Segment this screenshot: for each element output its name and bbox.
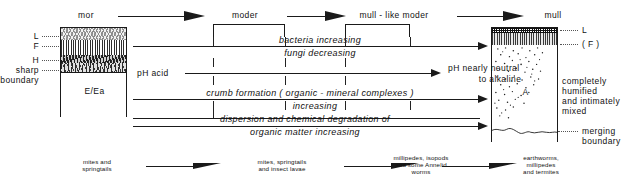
mor-label-L: L — [25, 31, 39, 41]
mor-profile-column: E/Ea — [60, 27, 127, 117]
stage-label-mor: mor — [60, 10, 112, 20]
tick-moder-crumb-b — [285, 101, 286, 110]
mull-leader-F — [560, 44, 578, 45]
mull-desc-line4: mixed — [562, 106, 587, 116]
tick-moder-ph-a — [213, 76, 214, 85]
fauna-moder-line2: and insect lavae — [232, 165, 332, 172]
tick-mlm-crumb-a — [345, 101, 346, 110]
mor-leader-H — [42, 60, 59, 61]
mull-desc-line3: and intimately — [562, 96, 620, 106]
humus-form-diagram: mor moder mull - like moder mull E/Ea L … — [0, 0, 623, 186]
tick-mlm-ph-a — [345, 76, 346, 85]
arrow-mlm-to-mull-head — [503, 11, 524, 21]
mull-horizon-F — [492, 33, 557, 45]
gradient-line-ph — [185, 73, 433, 74]
gradient-arrowhead-crumb — [478, 95, 488, 103]
gradient-label-fungi: fungi decreasing — [245, 48, 395, 58]
gradient-label-bacteria: bacteria increasing — [240, 35, 400, 45]
mull-desc-line1: completely — [562, 76, 607, 86]
mull-boundary-label-line2: boundary — [582, 136, 621, 146]
fauna-arrow-1-head — [193, 163, 221, 169]
mor-label-F: F — [25, 41, 39, 51]
mull-label-F: ( F ) — [582, 39, 600, 49]
tick-mlm-crumb-b — [410, 101, 411, 110]
arrow-mlm-to-mull-line — [457, 16, 505, 17]
mull-body-label: A — [492, 87, 559, 97]
stage-label-moder: moder — [210, 10, 280, 20]
gradient-line-bacteria — [133, 46, 480, 47]
mull-profile-column: A — [491, 27, 558, 142]
fauna-arrow-3-line — [442, 166, 491, 167]
mor-label-H: H — [25, 55, 39, 65]
stage-label-mull: mull — [528, 10, 578, 20]
fauna-mor-line2: springtails — [60, 165, 134, 172]
fauna-mlm-line3: worms — [366, 168, 476, 175]
tick-moder-disp-a — [213, 109, 214, 118]
mor-horizon-L — [61, 28, 126, 40]
gradient-label-crumb: crumb formation ( organic - mineral comp… — [160, 88, 460, 98]
stage-label-mull-like-moder: mull - like moder — [336, 10, 452, 20]
mor-boundary-label-line1: sharp — [3, 65, 39, 75]
arrow-moder-to-mlm-line — [287, 16, 327, 17]
ph-label-left: pH acid — [137, 68, 169, 78]
gradient-label-crumb-increasing: increasing — [250, 101, 380, 111]
ph-label-right-line2: to alkaline — [448, 74, 552, 84]
tick-mlm-upper-a — [345, 37, 346, 46]
mor-body-label: E/Ea — [61, 86, 128, 96]
mull-merging-boundary-curve — [492, 128, 557, 133]
mull-boundary-label-line1: merging — [582, 126, 616, 136]
gradient-arrowhead-dispersion — [478, 122, 488, 130]
mor-leader-boundary — [42, 70, 59, 71]
mull-leader-L — [560, 30, 578, 31]
fauna-mull-line3: and termites — [496, 168, 586, 175]
mull-label-L: L — [582, 25, 587, 35]
arrow-mor-to-moder-head — [184, 11, 205, 21]
tick-moder-upper-b — [285, 37, 286, 46]
mor-leader-L — [42, 36, 59, 37]
arrow-mor-to-moder-line — [118, 16, 186, 17]
tick-mlm-mid-a — [345, 58, 346, 67]
gradient-arrowhead-bacteria — [478, 42, 488, 50]
tick-moder-mid-a — [213, 58, 214, 67]
mor-horizon-H — [61, 55, 126, 63]
mor-boundary-label-line2: boundary — [0, 75, 39, 85]
mor-horizon-F — [61, 40, 126, 55]
tick-moder-ph-b — [285, 76, 286, 85]
gradient-label-dispersion-2: organic matter increasing — [190, 127, 420, 137]
mull-leader-merging-boundary — [558, 131, 578, 132]
tick-moder-upper-a — [213, 37, 214, 46]
gradient-line-dispersion-bottom — [133, 126, 480, 127]
gradient-arrowhead-ph — [431, 69, 441, 77]
gradient-label-dispersion: dispersion and chemical degradation of — [160, 114, 450, 124]
mull-desc-line2: humified — [562, 86, 597, 96]
gradient-line-crumb — [133, 99, 480, 100]
fauna-arrow-1-line — [146, 166, 195, 167]
tick-moder-mid-b — [285, 58, 286, 67]
tick-mlm-upper-b — [410, 37, 411, 46]
mor-leader-F — [42, 46, 59, 47]
mor-horizon-H-lower — [61, 63, 126, 72]
ph-label-right-line1: pH nearly neutral — [448, 63, 520, 73]
